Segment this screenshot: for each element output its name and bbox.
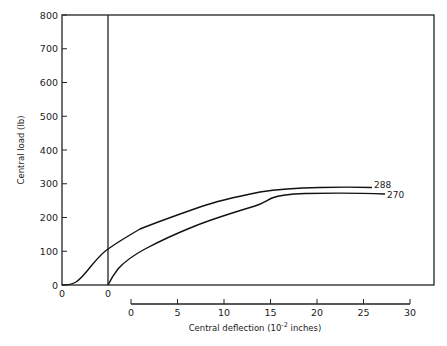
x-tick-label: 5 <box>174 307 180 318</box>
y-tick-label: 500 <box>40 111 58 122</box>
x-axis-title-tail: inches) <box>288 323 322 333</box>
y-axis-ticks: 0100200300400500600700800 <box>40 10 67 291</box>
y-tick-label: 700 <box>40 43 58 54</box>
x-tick-label: 0 <box>128 307 134 318</box>
x-axis-title: Central deflection (10-2 inches) <box>189 321 322 333</box>
x-axis-ticks: 051015202530 <box>128 299 416 318</box>
x-tick-label: 25 <box>357 307 369 318</box>
y-tick-label: 0 <box>52 280 58 291</box>
y-axis-title: Central load (lb) <box>16 116 26 185</box>
origin-label-inner: 0 <box>105 288 111 299</box>
y-tick-label: 400 <box>40 145 58 156</box>
curve-270 <box>108 193 385 285</box>
x-tick-label: 10 <box>218 307 230 318</box>
plot-frame <box>62 15 434 285</box>
curve-label-270: 270 <box>387 190 404 200</box>
y-tick-label: 600 <box>40 77 58 88</box>
x-tick-label: 15 <box>264 307 276 318</box>
y-tick-label: 800 <box>40 10 58 21</box>
y-tick-label: 300 <box>40 178 58 189</box>
origin-label-left: 0 <box>59 288 65 299</box>
x-tick-label: 20 <box>311 307 323 318</box>
x-axis-title-main: Central deflection (10 <box>189 323 282 333</box>
load-deflection-chart: 0100200300400500600700800 0 0 0510152025… <box>0 0 447 346</box>
y-tick-label: 100 <box>40 246 58 257</box>
y-tick-label: 200 <box>40 212 58 223</box>
x-tick-label: 30 <box>404 307 416 318</box>
curve-label-288: 288 <box>374 180 391 190</box>
